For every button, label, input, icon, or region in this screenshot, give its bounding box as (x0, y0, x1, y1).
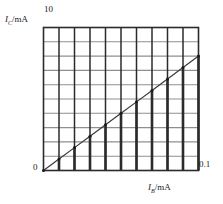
data-point-marker (73, 146, 76, 149)
origin-tick-label: 0 (33, 163, 38, 172)
data-point-marker (166, 77, 169, 80)
data-point-marker (120, 112, 123, 115)
data-point-marker (42, 169, 45, 172)
y-axis-max-tick-label: 10 (44, 5, 53, 14)
x-axis-label-unit: /mA (155, 182, 171, 192)
data-point-marker (182, 66, 185, 69)
data-point-marker (197, 55, 200, 58)
data-point-marker (89, 135, 92, 138)
data-point-marker (58, 158, 61, 161)
data-point-marker (151, 89, 154, 92)
data-point-marker (135, 100, 138, 103)
x-axis-label: IB/mA (148, 183, 171, 194)
plot-area (0, 0, 223, 204)
data-point-marker (104, 123, 107, 126)
x-axis-max-tick-label: 0.1 (199, 160, 210, 169)
chart-figure: IC/mA IB/mA 10 0 0.1 (0, 0, 223, 204)
y-axis-label: IC/mA (5, 15, 28, 26)
y-axis-label-unit: /mA (12, 14, 28, 24)
